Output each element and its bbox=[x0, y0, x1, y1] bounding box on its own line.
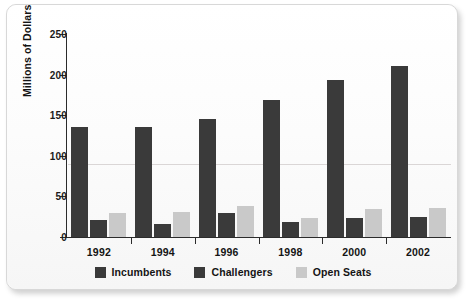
legend-item-challengers[interactable]: Challengers bbox=[194, 266, 272, 278]
x-axis-label-1998: 1998 bbox=[278, 246, 302, 258]
x-axis-label-2000: 2000 bbox=[342, 246, 366, 258]
bar-open-seats-2000[interactable] bbox=[365, 209, 382, 237]
bar-open-seats-1996[interactable] bbox=[237, 206, 254, 237]
legend-swatch-icon bbox=[95, 267, 106, 278]
y-tick-label: 250 bbox=[50, 29, 67, 40]
bar-incumbents-1996[interactable] bbox=[199, 119, 216, 237]
bar-open-seats-1998[interactable] bbox=[301, 218, 318, 237]
y-tick-label: 50 bbox=[55, 191, 67, 202]
bar-incumbents-1994[interactable] bbox=[135, 127, 152, 237]
x-tick-mark bbox=[195, 237, 196, 244]
bar-challengers-1998[interactable] bbox=[282, 222, 299, 237]
legend-label: Challengers bbox=[211, 266, 272, 278]
x-tick-mark bbox=[322, 237, 323, 244]
chart-legend: IncumbentsChallengersOpen Seats bbox=[7, 266, 459, 278]
bar-group bbox=[131, 34, 195, 237]
bar-challengers-1992[interactable] bbox=[90, 220, 107, 237]
x-axis-label-1994: 1994 bbox=[151, 246, 175, 258]
legend-swatch-icon bbox=[296, 267, 307, 278]
x-axis-label-1996: 1996 bbox=[214, 246, 238, 258]
y-axis-title: Millions of Dollars bbox=[21, 5, 33, 97]
bar-challengers-2000[interactable] bbox=[346, 218, 363, 237]
bar-incumbents-1998[interactable] bbox=[263, 100, 280, 237]
bar-challengers-1994[interactable] bbox=[154, 224, 171, 237]
chart-card: Millions of Dollars 050100150200250 1992… bbox=[6, 4, 458, 290]
bar-group bbox=[322, 34, 386, 237]
x-axis-label-1992: 1992 bbox=[87, 246, 111, 258]
x-tick-mark bbox=[259, 237, 260, 244]
x-tick-mark bbox=[131, 237, 132, 244]
bar-incumbents-1992[interactable] bbox=[71, 127, 88, 237]
bar-incumbents-2002[interactable] bbox=[391, 66, 408, 237]
bar-open-seats-1992[interactable] bbox=[109, 213, 126, 237]
bar-group bbox=[386, 34, 450, 237]
legend-label: Incumbents bbox=[112, 266, 172, 278]
bar-group bbox=[195, 34, 259, 237]
y-tick-label: 100 bbox=[50, 150, 67, 161]
bar-group bbox=[259, 34, 323, 237]
bar-open-seats-2002[interactable] bbox=[429, 208, 446, 237]
legend-swatch-icon bbox=[194, 267, 205, 278]
x-tick-mark bbox=[386, 237, 387, 244]
legend-item-incumbents[interactable]: Incumbents bbox=[95, 266, 172, 278]
legend-label: Open Seats bbox=[313, 266, 372, 278]
legend-item-open-seats[interactable]: Open Seats bbox=[296, 266, 372, 278]
y-tick-label: 200 bbox=[50, 69, 67, 80]
plot-area: 050100150200250 bbox=[67, 34, 450, 237]
bar-challengers-2002[interactable] bbox=[410, 217, 427, 237]
x-axis-label-2002: 2002 bbox=[406, 246, 430, 258]
bar-challengers-1996[interactable] bbox=[218, 213, 235, 237]
chart-page: Millions of Dollars 050100150200250 1992… bbox=[0, 0, 470, 305]
bar-open-seats-1994[interactable] bbox=[173, 212, 190, 237]
y-tick-label: 150 bbox=[50, 110, 67, 121]
bar-incumbents-2000[interactable] bbox=[327, 80, 344, 237]
bar-group bbox=[67, 34, 131, 237]
